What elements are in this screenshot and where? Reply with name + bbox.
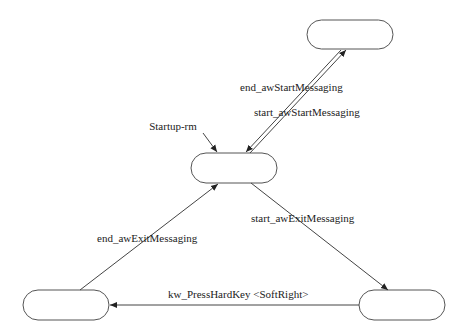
state-node-top[interactable] bbox=[307, 20, 393, 49]
initial-label: Startup-rm bbox=[149, 120, 197, 132]
edge-label-start-awExitMessaging: start_awExitMessaging bbox=[251, 212, 355, 224]
state-node-center[interactable] bbox=[191, 153, 277, 183]
edge-label-end-awStartMessaging: end_awStartMessaging bbox=[240, 81, 343, 93]
edge-start-awExitMessaging bbox=[251, 183, 388, 290]
state-diagram: Startup-rm end_awStartMessaging start_aw… bbox=[0, 0, 465, 335]
edge-label-end-awExitMessaging: end_awExitMessaging bbox=[97, 232, 198, 244]
edge-label-start-awStartMessaging: start_awStartMessaging bbox=[254, 106, 360, 118]
edge-label-kw-PressHardKey: kw_PressHardKey <SoftRight> bbox=[168, 288, 308, 300]
state-node-bottom-left[interactable] bbox=[23, 290, 109, 320]
initial-transition-arrow bbox=[203, 133, 217, 152]
state-node-bottom-right[interactable] bbox=[359, 290, 445, 320]
edge-start-awStartMessaging bbox=[250, 50, 346, 153]
edge-end-awStartMessaging bbox=[246, 50, 341, 152]
